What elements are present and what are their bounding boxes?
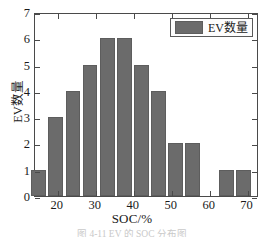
y-axis-title: EV数量 [7,54,26,150]
x-tick-label: 20 [46,199,68,212]
y-tick-label: 6 [14,33,30,46]
figure-caption: 图 4-11 EV 的 SOC 分布图 [0,226,264,237]
x-tick-label: 70 [236,199,258,212]
y-tick-label: 0 [14,191,30,204]
x-tick-label: 50 [160,199,182,212]
x-tick-label: 30 [84,199,106,212]
figure-container: EV数量 01234567 203040506070 SOC/% EV数量 图 … [0,0,264,237]
x-tick-label: 40 [122,199,144,212]
y-tick-label: 1 [14,165,30,178]
x-tick-label: 60 [198,199,220,212]
y-tick-label: 7 [14,7,30,20]
x-axis-title: SOC/% [0,211,264,227]
